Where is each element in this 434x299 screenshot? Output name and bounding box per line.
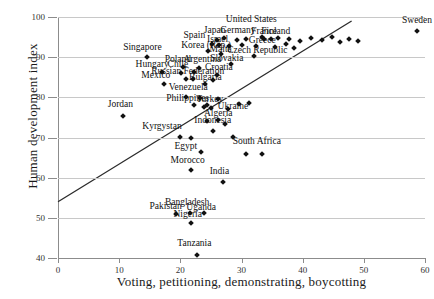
data-point-label: Mexico bbox=[141, 71, 170, 81]
x-axis-tick-label: 60 bbox=[421, 265, 430, 275]
x-axis-tick bbox=[425, 258, 426, 263]
data-point-label: Nigeria bbox=[173, 211, 202, 221]
y-axis-tick-label: 50 bbox=[36, 213, 45, 223]
x-axis-tick-label: 30 bbox=[237, 265, 246, 275]
y-axis-tick bbox=[48, 57, 57, 58]
y-axis-tick-label: 90 bbox=[36, 52, 45, 62]
x-axis-tick bbox=[119, 258, 120, 263]
x-axis-tick bbox=[364, 258, 365, 263]
data-point-label: Tanzania bbox=[177, 240, 211, 250]
plot-area: 4050607080901000102030405060SwedenUnited… bbox=[58, 17, 425, 258]
data-point-label: Bulgaria bbox=[189, 73, 222, 83]
y-axis-tick-label: 80 bbox=[36, 92, 45, 102]
gridline bbox=[58, 178, 425, 179]
data-point-label: Egypt bbox=[174, 142, 197, 152]
y-axis-tick bbox=[48, 218, 57, 219]
data-point-label: Jordan bbox=[108, 101, 133, 111]
x-axis-tick bbox=[303, 258, 304, 263]
data-point-label: Singapore bbox=[123, 44, 162, 54]
x-axis-tick bbox=[180, 258, 181, 263]
x-axis-tick-label: 40 bbox=[298, 265, 307, 275]
data-point-label: Sweden bbox=[402, 16, 432, 26]
y-axis-title: Human development index bbox=[25, 0, 41, 241]
data-point-label: Morocco bbox=[171, 156, 205, 166]
y-axis-tick bbox=[48, 138, 57, 139]
y-axis-tick bbox=[48, 258, 57, 259]
y-axis-tick bbox=[48, 97, 57, 98]
data-point-label: Kyrgystan bbox=[142, 122, 181, 132]
x-axis-tick bbox=[242, 258, 243, 263]
y-axis-tick bbox=[48, 178, 57, 179]
gridline bbox=[58, 218, 425, 219]
y-axis-tick-label: 100 bbox=[32, 12, 46, 22]
data-point-label: Venezuela bbox=[169, 84, 208, 94]
x-axis-tick-label: 20 bbox=[176, 265, 185, 275]
scatter-chart: Human development index Voting, petition… bbox=[0, 0, 434, 299]
y-axis-tick-label: 70 bbox=[36, 133, 45, 143]
x-axis-tick-label: 0 bbox=[56, 265, 61, 275]
data-point-label: South Africa bbox=[233, 138, 281, 148]
x-axis-tick bbox=[58, 258, 59, 263]
gridline bbox=[58, 97, 425, 98]
y-axis-tick bbox=[48, 17, 57, 18]
data-point-label: Indonesia bbox=[194, 117, 231, 127]
y-axis-tick-label: 40 bbox=[36, 253, 45, 263]
data-point-label: United States bbox=[226, 15, 277, 25]
x-axis-tick-label: 50 bbox=[359, 265, 368, 275]
y-axis-tick-label: 60 bbox=[36, 173, 45, 183]
x-axis-tick-label: 10 bbox=[115, 265, 124, 275]
data-point-label: India bbox=[210, 167, 230, 177]
x-axis-title: Voting, petitioning, demonstrating, boyc… bbox=[58, 274, 425, 290]
